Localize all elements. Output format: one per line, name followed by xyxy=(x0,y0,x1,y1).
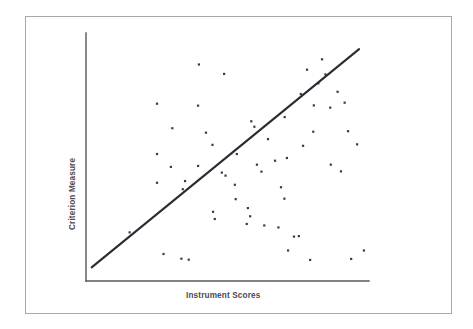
data-point xyxy=(256,164,258,166)
data-point xyxy=(234,184,236,186)
regression-line xyxy=(92,49,359,267)
data-point xyxy=(347,130,349,132)
data-point xyxy=(283,198,285,200)
data-point xyxy=(312,131,314,133)
data-point xyxy=(188,259,190,261)
data-point xyxy=(162,253,164,255)
data-point xyxy=(180,258,182,260)
data-point xyxy=(356,143,358,145)
data-point xyxy=(205,132,207,134)
data-point xyxy=(336,91,338,93)
data-point xyxy=(128,231,130,233)
data-point xyxy=(274,160,276,162)
data-point xyxy=(171,127,173,129)
data-point xyxy=(156,103,158,105)
data-point xyxy=(330,164,332,166)
data-point xyxy=(247,207,249,209)
data-point xyxy=(280,186,282,188)
data-point xyxy=(260,171,262,173)
data-point xyxy=(253,126,255,128)
data-point xyxy=(184,180,186,182)
data-point xyxy=(214,218,216,220)
data-point xyxy=(182,188,184,190)
data-point xyxy=(250,120,252,122)
data-point xyxy=(263,224,265,226)
data-point xyxy=(287,249,289,251)
data-point xyxy=(363,249,365,251)
data-point xyxy=(224,175,226,177)
data-point xyxy=(350,258,352,260)
data-point xyxy=(340,170,342,172)
y-axis-title: Criterion Measure xyxy=(68,158,77,230)
data-point xyxy=(198,63,200,65)
data-point xyxy=(170,166,172,168)
data-point xyxy=(249,215,251,217)
data-point xyxy=(302,145,304,147)
data-point xyxy=(223,73,225,75)
data-point xyxy=(246,223,248,225)
data-point xyxy=(344,102,346,104)
data-point xyxy=(321,58,323,60)
data-point xyxy=(293,236,295,238)
data-point xyxy=(156,182,158,184)
data-point xyxy=(306,69,308,71)
data-point xyxy=(298,235,300,237)
data-point xyxy=(235,198,237,200)
data-point xyxy=(211,144,213,146)
data-point xyxy=(284,116,286,118)
data-point xyxy=(267,138,269,140)
data-point xyxy=(197,105,199,107)
x-axis-title: Instrument Scores xyxy=(186,291,260,300)
data-point xyxy=(221,172,223,174)
data-point xyxy=(277,226,279,228)
data-point xyxy=(156,153,158,155)
data-point xyxy=(236,153,238,155)
data-point xyxy=(212,211,214,213)
data-point xyxy=(197,165,199,167)
data-points-layer xyxy=(128,58,365,261)
data-point xyxy=(329,107,331,109)
data-point xyxy=(286,157,288,159)
data-point xyxy=(309,259,311,261)
figure-root: Criterion Measure Instrument Scores xyxy=(0,0,473,329)
data-point xyxy=(313,104,315,106)
